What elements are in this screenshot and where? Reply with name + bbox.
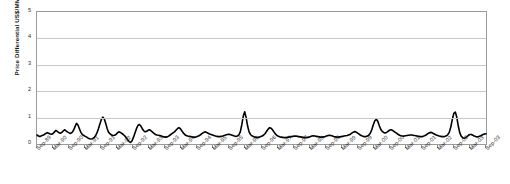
y-tick-1: 1 [28,114,31,120]
y-tick-5: 5 [28,8,31,14]
plot-area [36,11,487,145]
y-tick-2: 2 [28,87,31,93]
x-axis-tick-labels: Sep-89Mar-90Sep-90Mar-91Sep-91Mar-92Sep-… [36,147,487,184]
y-tick-3: 3 [28,61,31,67]
y-tick-0: 0 [28,140,31,146]
series-line-price-differential [37,12,486,144]
gridline-1 [37,118,486,119]
line-chart: Price Differential US$/MMBtu 012345 Sep-… [0,0,510,184]
y-tick-4: 4 [28,35,31,41]
gridline-4 [37,38,486,39]
gridline-3 [37,65,486,66]
y-axis-tick-labels: 012345 [0,11,34,145]
gridline-2 [37,91,486,92]
